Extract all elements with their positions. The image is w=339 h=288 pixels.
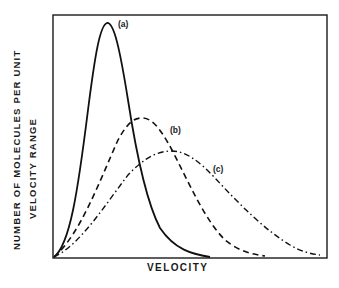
curve-c <box>54 151 320 257</box>
curve-label-a: (a) <box>118 19 129 29</box>
y-axis-label-line1: NUMBER OF MOLECULES PER UNIT <box>11 50 22 250</box>
x-axis-label: VELOCITY <box>147 262 208 273</box>
curve-label-c: (c) <box>213 164 224 174</box>
maxwell-distribution-chart: (a) (b) (c) <box>0 0 339 288</box>
curve-label-b: (b) <box>170 125 181 135</box>
curve-b <box>54 118 265 257</box>
curve-a <box>54 23 210 257</box>
plot-frame <box>53 15 327 258</box>
y-axis-label-line2: VELOCITY RANGE <box>27 118 38 219</box>
